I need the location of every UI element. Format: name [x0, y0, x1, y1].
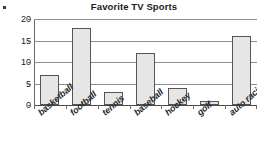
gridline [34, 41, 257, 42]
y-axis: 05101520 [14, 19, 31, 106]
x-axis-tick-mark [225, 105, 226, 109]
bar-chart: Favorite TV Sports 05101520 basketballfo… [0, 0, 257, 159]
x-axis-tick-mark [98, 105, 99, 109]
x-axis-tick-mark [161, 105, 162, 109]
y-axis-tick-mark [28, 41, 31, 42]
chart-title: Favorite TV Sports [34, 1, 234, 12]
y-axis-tick-mark [28, 19, 31, 20]
y-axis-tick-mark [28, 105, 31, 106]
x-axis-tick-mark [130, 105, 131, 109]
x-axis-tick-mark [34, 105, 35, 109]
bullet-marker [3, 6, 6, 9]
bar [168, 88, 187, 105]
x-axis-tick-mark [66, 105, 67, 109]
y-axis-tick-mark [28, 62, 31, 63]
bar [104, 92, 123, 105]
x-axis-line [34, 105, 257, 106]
bar [72, 28, 91, 105]
x-axis-tick-mark [193, 105, 194, 109]
plot-area [34, 19, 257, 105]
bar [232, 36, 251, 105]
x-axis-tick-mark [256, 105, 257, 109]
bar [136, 53, 155, 105]
gridline [34, 19, 257, 20]
y-axis-tick-mark [28, 84, 31, 85]
bar [200, 101, 219, 105]
bar [40, 75, 59, 105]
